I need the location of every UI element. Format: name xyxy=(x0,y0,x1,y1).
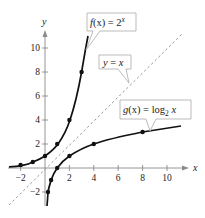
x-axis-arrow-icon xyxy=(182,166,189,171)
x-axis-label: x xyxy=(192,162,198,173)
y-axis-label: y xyxy=(41,16,47,27)
f-callout: f(x) = 2x xyxy=(86,13,136,50)
f-curve xyxy=(9,36,88,167)
x-tick-label: 8 xyxy=(140,173,145,183)
y-tick-label: 6 xyxy=(35,91,40,101)
x-axis: −2 2 4 6 8 10 x xyxy=(8,162,198,183)
y-tick-label: 8 xyxy=(35,67,40,77)
y-tick-label: 2 xyxy=(35,139,40,149)
chart: −2 2 4 6 8 10 x −2 2 4 6 8 10 y xyxy=(0,0,205,218)
y-axis: −2 2 4 6 8 10 y xyxy=(30,16,48,206)
y-tick-label: −2 xyxy=(30,187,40,197)
x-tick-label: 2 xyxy=(67,173,72,183)
y-tick-label: 10 xyxy=(31,43,41,53)
y-tick-label: 4 xyxy=(35,115,40,125)
svg-text:y = x: y = x xyxy=(102,57,124,68)
x-tick-label: 10 xyxy=(162,173,172,183)
x-tick-label: −2 xyxy=(16,173,26,183)
g-curve xyxy=(47,126,181,206)
x-tick-label: 6 xyxy=(116,173,121,183)
x-tick-label: 4 xyxy=(91,173,96,183)
identity-callout: y = x xyxy=(99,55,131,83)
y-axis-arrow-icon xyxy=(43,30,48,37)
svg-text:f(x) = 2x: f(x) = 2x xyxy=(90,15,126,29)
